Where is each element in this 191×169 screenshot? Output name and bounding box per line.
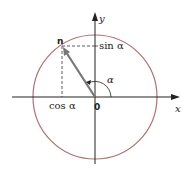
origin-label: 0 xyxy=(94,102,100,112)
y-axis-label: y xyxy=(98,13,105,24)
angle-label: α xyxy=(107,74,114,85)
cos-label: cos α xyxy=(49,100,76,111)
sin-label: sin α xyxy=(99,40,124,51)
point-n-label: n xyxy=(57,36,63,46)
x-axis-arrow-icon xyxy=(171,94,180,100)
x-axis-label: x xyxy=(175,103,181,114)
unit-circle-diagram: y x 0 n sin α cos α α xyxy=(0,0,191,169)
vector-n xyxy=(66,52,95,97)
y-axis-arrow-icon xyxy=(92,12,98,21)
